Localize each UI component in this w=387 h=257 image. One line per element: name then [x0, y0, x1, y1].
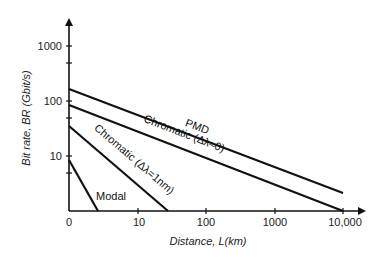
series-label-chromatic-0: Chromatic (Δλ≈0)	[142, 112, 226, 154]
x-tick-label: 10,000	[328, 216, 362, 228]
x-tick-label: 0	[66, 216, 72, 228]
x-tick-label: 100	[197, 216, 215, 228]
series-line-modal	[69, 160, 98, 211]
series-label-modal: Modal	[96, 190, 126, 202]
x-tick-label: 10	[133, 216, 145, 228]
y-axis-title: Bit rate, BR (Gbit/s)	[20, 70, 32, 166]
x-axis-title: Distance, L(km)	[169, 235, 246, 247]
y-tick-label: 10	[50, 150, 62, 162]
y-tick-label: 100	[44, 95, 62, 107]
series-label-chromatic-1nm: Chromatic (Δλ=1nm)	[92, 121, 177, 196]
chart: 1000 100 10 0 10 100 1000 10,000 Distanc…	[0, 0, 387, 257]
y-tick-label: 1000	[38, 40, 62, 52]
x-tick-label: 1000	[263, 216, 287, 228]
